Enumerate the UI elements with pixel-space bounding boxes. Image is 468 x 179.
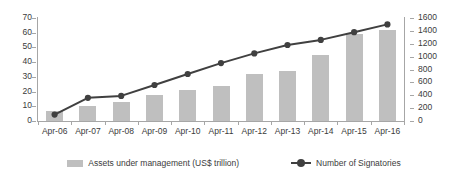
right-axis-line	[404, 17, 405, 122]
line-marker-swatch-icon	[291, 159, 311, 167]
right-axis-tick-0: 0	[418, 116, 444, 125]
left-axis-tick-30: 30	[10, 72, 32, 81]
category-tick-mark	[337, 121, 338, 125]
line-marker-Apr-06	[52, 112, 58, 118]
category-tick-mark	[238, 121, 239, 125]
category-tick-mark	[371, 121, 372, 125]
category-tick-mark	[404, 121, 405, 125]
right-tick-mark	[410, 121, 414, 122]
right-tick-mark	[410, 18, 414, 19]
line-marker-Apr-07	[85, 95, 91, 101]
left-tick-mark	[32, 33, 36, 34]
chart-legend: Assets under management (US$ trillion) N…	[0, 155, 468, 171]
right-tick-mark	[410, 95, 414, 96]
right-tick-mark	[410, 31, 414, 32]
right-axis-tick-200: 200	[418, 103, 444, 112]
left-axis-tick-labels: 010203040506070	[8, 0, 32, 179]
right-tick-mark	[410, 82, 414, 83]
line-marker-Apr-12	[251, 50, 257, 56]
signatories-line-path	[55, 24, 388, 114]
right-tick-mark	[410, 70, 414, 71]
left-axis-tick-40: 40	[10, 57, 32, 66]
category-tick-mark	[105, 121, 106, 125]
category-tick-mark	[271, 121, 272, 125]
legend-item-assets-under-management: Assets under management (US$ trillion)	[67, 158, 239, 168]
legend-item-number-of-signatories: Number of Signatories	[291, 158, 401, 168]
category-axis-line	[37, 121, 405, 122]
category-tick-mark	[304, 121, 305, 125]
right-axis-tick-1600: 1600	[418, 13, 444, 22]
left-axis-tick-10: 10	[10, 101, 32, 110]
right-axis-tick-1200: 1200	[418, 39, 444, 48]
right-axis-tick-labels: 02004006008001000120014001600	[410, 0, 440, 179]
signatories-line-svg	[38, 18, 404, 121]
left-axis-tick-60: 60	[10, 28, 32, 37]
line-marker-Apr-13	[284, 42, 290, 48]
right-axis-tick-600: 600	[418, 77, 444, 86]
left-tick-mark	[32, 92, 36, 93]
category-tick-mark	[71, 121, 72, 125]
line-series-number-of-signatories	[38, 18, 404, 121]
left-axis-tick-0: 0	[10, 116, 32, 125]
combo-chart: 010203040506070 020040060080010001200140…	[0, 0, 468, 179]
left-tick-mark	[32, 18, 36, 19]
left-tick-mark	[32, 62, 36, 63]
legend-label-assets-under-management: Assets under management (US$ trillion)	[88, 158, 239, 168]
category-tick-mark	[171, 121, 172, 125]
right-axis-tick-1000: 1000	[418, 52, 444, 61]
line-marker-Apr-14	[318, 37, 324, 43]
right-tick-mark	[410, 44, 414, 45]
category-tick-mark	[204, 121, 205, 125]
left-axis-tick-70: 70	[10, 13, 32, 22]
right-axis-tick-400: 400	[418, 90, 444, 99]
line-marker-Apr-10	[185, 71, 191, 77]
left-tick-mark	[32, 106, 36, 107]
legend-label-number-of-signatories: Number of Signatories	[316, 158, 401, 168]
right-axis-tick-1400: 1400	[418, 26, 444, 35]
right-tick-mark	[410, 108, 414, 109]
line-marker-Apr-08	[118, 93, 124, 99]
bar-swatch-icon	[67, 160, 83, 167]
line-marker-Apr-15	[351, 29, 357, 35]
right-tick-mark	[410, 57, 414, 58]
line-marker-Apr-11	[218, 60, 224, 66]
category-label-Apr-16: Apr-16	[365, 126, 409, 136]
left-tick-mark	[32, 47, 36, 48]
left-tick-mark	[32, 77, 36, 78]
right-axis-tick-800: 800	[418, 65, 444, 74]
category-tick-mark	[138, 121, 139, 125]
left-axis-tick-50: 50	[10, 42, 32, 51]
category-axis-labels: Apr-06Apr-07Apr-08Apr-09Apr-10Apr-11Apr-…	[38, 126, 404, 140]
left-axis-tick-20: 20	[10, 87, 32, 96]
line-marker-Apr-09	[151, 82, 157, 88]
line-marker-Apr-16	[384, 21, 390, 27]
left-tick-mark	[32, 121, 36, 122]
category-tick-mark	[38, 121, 39, 125]
